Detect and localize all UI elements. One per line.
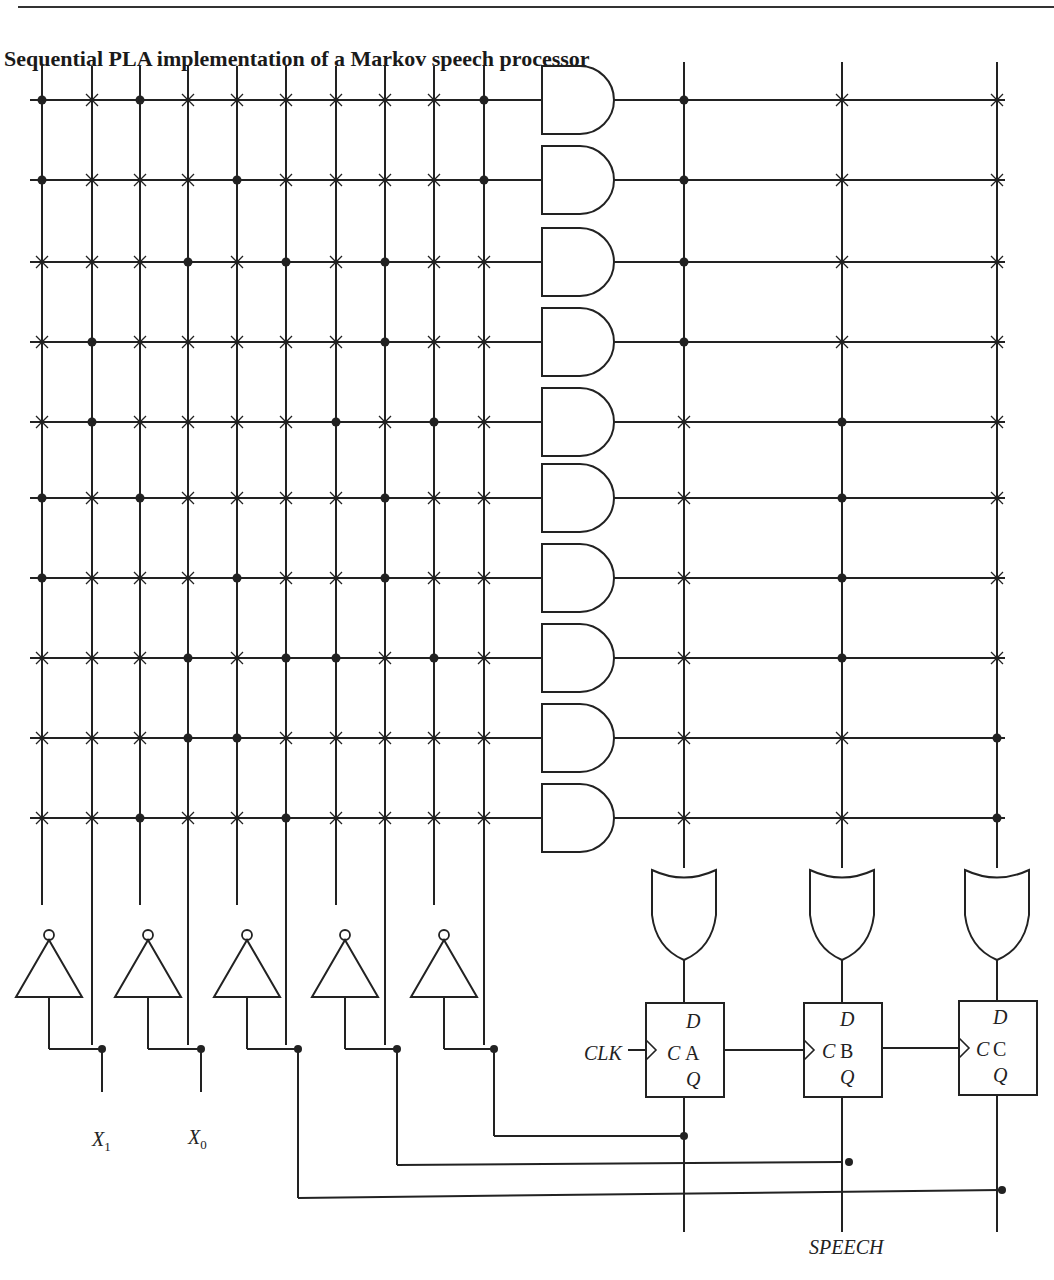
or-gate-icon	[965, 870, 1029, 960]
and-gate-icon	[542, 66, 614, 134]
and-gate-icon	[542, 464, 614, 532]
input-x1-label: X1	[92, 1128, 111, 1155]
connected-fuse-dot	[38, 494, 47, 503]
ff-c-q-label: Q	[993, 1064, 1007, 1087]
connected-fuse-dot	[480, 96, 489, 105]
connected-fuse-dot	[430, 654, 439, 663]
connected-fuse-dot	[136, 96, 145, 105]
connected-fuse-dot	[38, 574, 47, 583]
and-gate-icon	[542, 704, 614, 772]
connected-fuse-dot	[233, 574, 242, 583]
and-gate-icon	[542, 146, 614, 214]
connected-fuse-dot	[282, 654, 291, 663]
junction-dot	[845, 1158, 853, 1166]
inverter-icon	[214, 940, 280, 997]
and-gate-icon	[542, 388, 614, 456]
connected-fuse-dot	[233, 176, 242, 185]
connected-fuse-dot	[184, 258, 193, 267]
ff-b-q-label: Q	[840, 1066, 854, 1089]
connected-fuse-dot	[88, 418, 97, 427]
connected-fuse-dot	[381, 494, 390, 503]
inverter-icon	[16, 940, 82, 997]
feedback-b-wire	[397, 1162, 842, 1165]
ff-c-c-label: C	[976, 1038, 989, 1061]
connected-fuse-dot	[480, 176, 489, 185]
ff-b-d-label: D	[840, 1008, 854, 1031]
connected-fuse-dot	[332, 654, 341, 663]
inverter-icon	[115, 940, 181, 997]
and-gate-icon	[542, 308, 614, 376]
and-gate-icon	[542, 784, 614, 852]
ff-a-d-label: D	[686, 1010, 700, 1033]
ff-b-name: B	[840, 1040, 853, 1063]
ff-a-q-label: Q	[686, 1068, 700, 1091]
input-x0-label: X0	[188, 1126, 207, 1153]
connected-fuse-dot	[381, 574, 390, 583]
inverter-icon	[411, 940, 477, 997]
connected-fuse-dot	[430, 418, 439, 427]
connected-fuse-dot	[38, 176, 47, 185]
speech-output-label: SPEECH	[809, 1236, 883, 1259]
connected-fuse-dot	[136, 494, 145, 503]
connected-fuse-dot	[184, 734, 193, 743]
connected-fuse-dot	[38, 96, 47, 105]
ff-a-c-label: C	[667, 1042, 680, 1065]
connected-fuse-dot	[184, 654, 193, 663]
ff-c-name: C	[993, 1038, 1006, 1061]
and-gate-icon	[542, 544, 614, 612]
ff-b-c-label: C	[822, 1040, 835, 1063]
connected-fuse-dot	[282, 814, 291, 823]
and-gate-icon	[542, 228, 614, 296]
or-gate-icon	[810, 870, 874, 960]
feedback-c-wire	[298, 1190, 1000, 1198]
connected-fuse-dot	[282, 258, 291, 267]
connected-fuse-dot	[332, 418, 341, 427]
clock-label: CLK	[584, 1042, 622, 1065]
ff-c-d-label: D	[993, 1006, 1007, 1029]
junction-dot	[680, 1132, 688, 1140]
connected-fuse-dot	[381, 258, 390, 267]
pla-circuit-diagram	[0, 0, 1054, 1280]
junction-dot	[998, 1186, 1006, 1194]
connected-fuse-dot	[88, 338, 97, 347]
connected-fuse-dot	[381, 338, 390, 347]
inverter-icon	[312, 940, 378, 997]
ff-a-name: A	[685, 1042, 699, 1065]
and-gate-icon	[542, 624, 614, 692]
connected-fuse-dot	[233, 734, 242, 743]
or-gate-icon	[652, 870, 716, 960]
connected-fuse-dot	[136, 814, 145, 823]
